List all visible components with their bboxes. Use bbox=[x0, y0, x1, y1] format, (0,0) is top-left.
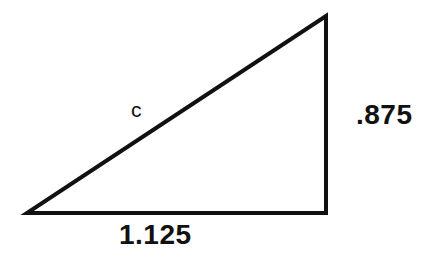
vertical-leg-label: .875 bbox=[356, 101, 413, 129]
triangle-figure: c .875 1.125 bbox=[0, 0, 431, 255]
hypotenuse-label: c bbox=[131, 99, 142, 120]
triangle-outline bbox=[27, 16, 326, 213]
base-leg-label: 1.125 bbox=[119, 221, 192, 249]
